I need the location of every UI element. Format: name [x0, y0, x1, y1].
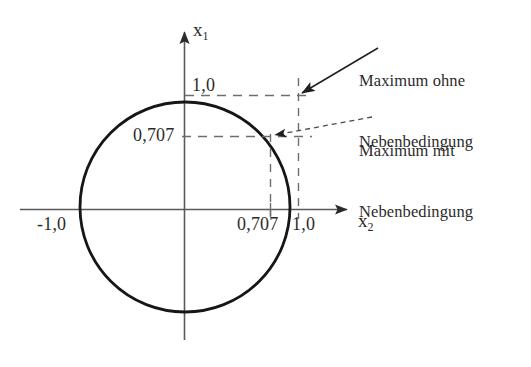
tick-label-y-sqrt-half: 0,707: [133, 125, 175, 146]
y-axis-label-text: x: [193, 19, 203, 40]
annotation-constrained-maximum: Maximum mit Nebenbedingung: [359, 101, 473, 262]
annotation-unconstrained-line1: Maximum ohne: [359, 71, 473, 91]
tick-label-x-sqrt-half: 0,707: [237, 214, 279, 235]
y-axis-label: x1: [193, 19, 209, 43]
tick-label-x-neg-one: -1,0: [37, 214, 66, 235]
tick-label-y-one: 1,0: [192, 75, 215, 96]
figure-canvas: x1 x2 1,0 0,707 -1,0 0,707 1,0 Maximum o…: [0, 0, 531, 367]
y-axis-label-subscript: 1: [203, 29, 209, 43]
annotation-constrained-line2: Nebenbedingung: [359, 202, 473, 222]
leader-constrained: [275, 117, 372, 135]
tick-label-x-one: 1,0: [292, 214, 315, 235]
annotation-constrained-line1: Maximum mit: [359, 141, 473, 161]
